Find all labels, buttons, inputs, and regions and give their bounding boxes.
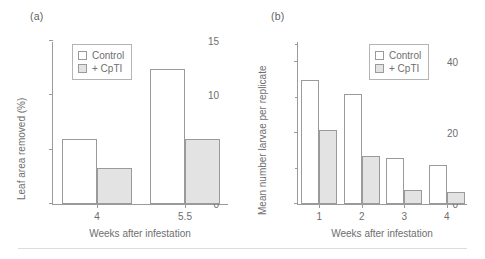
panel-a-legend-row-cpti: + CpTI bbox=[78, 62, 124, 75]
bar-control-4 bbox=[429, 165, 447, 204]
y-tick-minor bbox=[295, 44, 298, 45]
legend-label-control: Control bbox=[389, 49, 421, 62]
legend-swatch-control-icon bbox=[375, 51, 384, 60]
x-tick bbox=[97, 204, 98, 208]
panel-a-legend-row-control: Control bbox=[78, 49, 124, 62]
panel-b-legend-row-cpti: + CpTI bbox=[375, 62, 421, 75]
bar-cpti-3 bbox=[404, 190, 422, 204]
x-tick bbox=[319, 204, 320, 208]
panel-b-legend: Control + CpTI bbox=[369, 44, 429, 80]
x-tick-label: 5.5 bbox=[178, 211, 192, 222]
y-tick bbox=[49, 149, 53, 150]
y-tick-label: 15 bbox=[208, 36, 219, 47]
panel-b-y-axis-title: Mean number larvae per replicate bbox=[257, 65, 268, 215]
bar-cpti-5.5 bbox=[185, 139, 220, 204]
bar-control-2 bbox=[344, 94, 362, 204]
panel-b: (b) Mean number larvae per replicate 020… bbox=[243, 0, 485, 245]
panel-a-legend: Control + CpTI bbox=[72, 44, 132, 80]
legend-swatch-control-icon bbox=[78, 51, 87, 60]
y-tick-label: 20 bbox=[447, 128, 458, 139]
legend-swatch-cpti-icon bbox=[78, 64, 87, 73]
x-tick bbox=[362, 204, 363, 208]
x-tick bbox=[447, 204, 448, 208]
y-tick-minor bbox=[295, 168, 298, 169]
x-tick bbox=[185, 204, 186, 208]
bar-cpti-4 bbox=[97, 168, 132, 204]
legend-swatch-cpti-icon bbox=[375, 64, 384, 73]
panel-b-x-axis-title: Weeks after infestation bbox=[297, 228, 467, 239]
y-tick bbox=[294, 203, 298, 204]
x-tick-label: 3 bbox=[401, 211, 407, 222]
x-tick bbox=[404, 204, 405, 208]
y-tick-label: 40 bbox=[447, 57, 458, 68]
panel-b-label: (b) bbox=[271, 10, 284, 22]
x-tick-label: 4 bbox=[444, 211, 450, 222]
y-tick-label: 10 bbox=[208, 90, 219, 101]
y-tick-minor bbox=[295, 97, 298, 98]
panel-b-legend-row-control: Control bbox=[375, 49, 421, 62]
bar-cpti-4 bbox=[447, 192, 465, 204]
bar-cpti-1 bbox=[319, 130, 337, 204]
bar-control-1 bbox=[301, 80, 319, 204]
legend-label-control: Control bbox=[92, 49, 124, 62]
footer-divider bbox=[18, 248, 467, 249]
panel-a-x-axis-title: Weeks after infestation bbox=[52, 228, 228, 239]
x-tick-label: 4 bbox=[94, 211, 100, 222]
bar-control-3 bbox=[386, 158, 404, 204]
legend-label-cpti: + CpTI bbox=[92, 62, 122, 75]
y-tick bbox=[294, 132, 298, 133]
panel-a-label: (a) bbox=[30, 10, 43, 22]
bar-control-5.5 bbox=[150, 69, 185, 204]
y-tick bbox=[49, 203, 53, 204]
y-tick bbox=[49, 94, 53, 95]
figure-root: (a) Leaf area removed (%) 05101545.5 Wee… bbox=[0, 0, 485, 259]
x-tick-label: 1 bbox=[316, 211, 322, 222]
legend-label-cpti: + CpTI bbox=[389, 62, 419, 75]
bar-cpti-2 bbox=[362, 156, 380, 204]
panel-a-y-axis-title: Leaf area removed (%) bbox=[16, 98, 27, 200]
y-tick bbox=[49, 40, 53, 41]
x-tick-label: 2 bbox=[359, 211, 365, 222]
bar-control-4 bbox=[62, 139, 97, 204]
panel-a: (a) Leaf area removed (%) 05101545.5 Wee… bbox=[0, 0, 243, 245]
y-tick bbox=[294, 61, 298, 62]
